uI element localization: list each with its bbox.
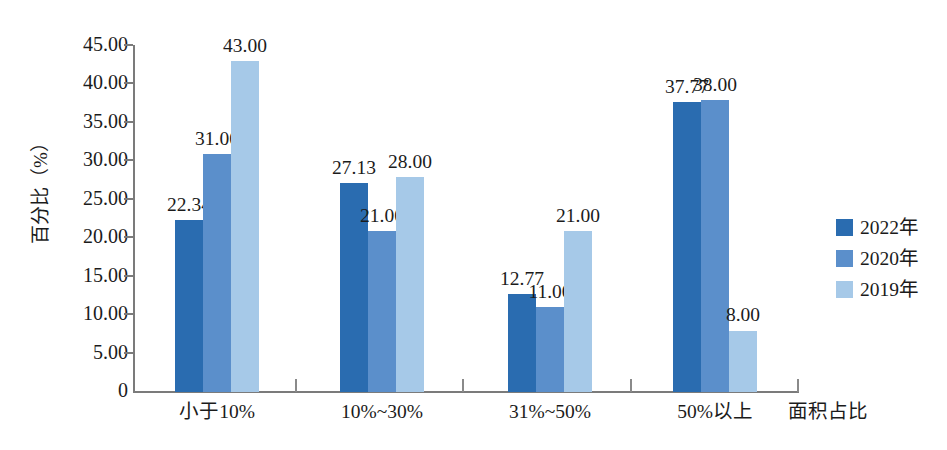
- legend-item[interactable]: 2020年: [836, 243, 919, 274]
- bar[interactable]: [396, 177, 424, 392]
- legend-label: 2019年: [860, 280, 919, 300]
- bar[interactable]: [231, 61, 259, 392]
- x-tick-mark: [462, 379, 464, 392]
- bar-group: 37.7738.008.00: [673, 1, 757, 392]
- bar[interactable]: [203, 154, 231, 392]
- bar-chart: 百分比（%） 45.0040.0035.0030.0025.0020.0015.…: [0, 0, 947, 450]
- x-tick-mark: [295, 379, 297, 392]
- bar[interactable]: [368, 231, 396, 392]
- bar-group: 12.7711.0021.00: [508, 1, 592, 392]
- bar[interactable]: [564, 231, 592, 392]
- bar-value-label: 21.00: [556, 206, 600, 226]
- legend-item[interactable]: 2022年: [836, 212, 919, 243]
- legend-swatch-icon: [836, 250, 853, 267]
- x-category-label: 50%以上: [677, 401, 753, 423]
- bar[interactable]: [673, 102, 701, 392]
- x-category-label: 小于10%: [179, 401, 255, 423]
- x-tick-mark: [630, 379, 632, 392]
- legend-label: 2020年: [860, 249, 919, 269]
- bar[interactable]: [729, 331, 757, 393]
- bar-value-label: 43.00: [223, 36, 267, 56]
- x-axis-title: 面积占比: [788, 401, 868, 423]
- legend-swatch-icon: [836, 281, 853, 298]
- legend-item[interactable]: 2019年: [836, 274, 919, 305]
- bar-value-label: 27.13: [332, 158, 376, 178]
- x-category-label: 31%~50%: [509, 401, 591, 423]
- bar-group: 22.3431.0043.00: [175, 1, 259, 392]
- bar-value-label: 28.00: [388, 152, 432, 172]
- legend-label: 2022年: [860, 218, 919, 238]
- bar[interactable]: [701, 100, 729, 392]
- bar[interactable]: [175, 220, 203, 392]
- bar-group: 27.1321.0028.00: [340, 1, 424, 392]
- bar-value-label: 8.00: [726, 305, 760, 325]
- plot-area: 22.3431.0043.0027.1321.0028.0012.7711.00…: [0, 0, 947, 392]
- bar-value-label: 38.00: [693, 75, 737, 95]
- x-category-label: 10%~30%: [341, 401, 423, 423]
- legend-swatch-icon: [836, 219, 853, 236]
- legend: 2022年2020年2019年: [836, 212, 919, 305]
- bar[interactable]: [508, 294, 536, 392]
- bar[interactable]: [536, 307, 564, 392]
